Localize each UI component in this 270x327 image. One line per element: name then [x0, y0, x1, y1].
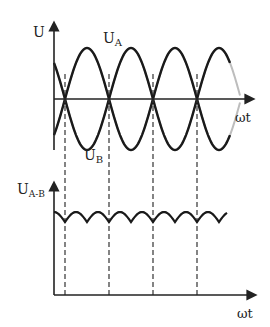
curve-b-label: UB — [84, 147, 103, 165]
curve-a-label: UA — [103, 30, 123, 48]
dashed-markers — [65, 74, 197, 295]
top-x-axis-label: ωt — [235, 110, 252, 125]
upper-envelope-curve — [54, 48, 230, 99]
bottom-y-axis-label: UA-B — [17, 181, 45, 199]
diagram-canvas: U ωt UA UB UA-B ωt — [0, 0, 270, 327]
output-ripple-curve — [54, 212, 227, 222]
lower-envelope-curve — [54, 99, 230, 150]
bottom-x-axis-label: ωt — [237, 306, 254, 321]
top-y-axis-label: U — [33, 24, 45, 40]
